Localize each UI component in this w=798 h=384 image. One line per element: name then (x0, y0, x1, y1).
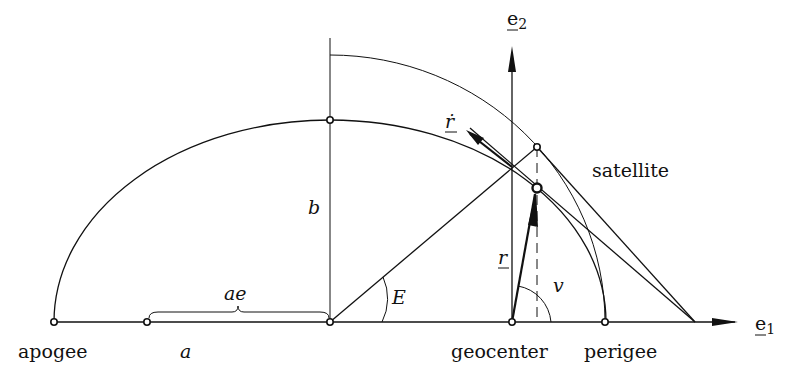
ae-start-point (144, 319, 150, 325)
b-label: b (308, 196, 320, 218)
apogee-point (51, 319, 57, 325)
ellipse-tangent-line (470, 128, 695, 322)
satellite-label: satellite (592, 159, 669, 181)
ae-brace (149, 306, 329, 318)
eccentric-anomaly-line (330, 147, 537, 322)
auxiliary-circle-arc (330, 55, 605, 322)
e1-arrow-icon (712, 318, 738, 326)
r-dot-label: ṙ (445, 110, 456, 132)
satellite-point (533, 184, 542, 193)
ae-label: ae (224, 282, 247, 304)
angle-v-arc (518, 286, 551, 322)
e1-label: e1 (755, 312, 775, 337)
v-label: v (553, 274, 564, 296)
geocenter-label: geocenter (451, 340, 549, 362)
ellipse-center-point (327, 319, 333, 325)
angle-E-arc (382, 277, 388, 322)
apogee-label: apogee (18, 340, 88, 362)
perigee-label: perigee (584, 340, 657, 362)
geocenter-point (509, 319, 515, 325)
ellipse-top-point (327, 117, 333, 123)
e2-label: e2 (507, 7, 527, 32)
a-label: a (180, 340, 191, 362)
r-label: r (498, 246, 509, 268)
E-label: E (391, 286, 406, 308)
perigee-point (602, 319, 608, 325)
e2-arrow-icon (508, 46, 516, 72)
orbit-diagram: apogee a ae b E v geocenter perigee sate… (0, 0, 798, 384)
circle-satellite-point (534, 144, 540, 150)
